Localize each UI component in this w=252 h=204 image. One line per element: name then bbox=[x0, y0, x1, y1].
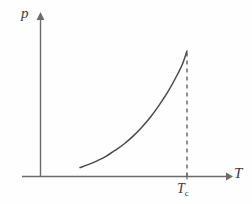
tick-label-subscript: c bbox=[185, 188, 189, 198]
y-axis-label: p bbox=[21, 6, 29, 21]
x-axis-arrowhead bbox=[226, 173, 233, 181]
y-axis bbox=[37, 12, 45, 177]
x-axis-tick-label-tc: Tc bbox=[177, 182, 189, 198]
y-axis-arrowhead bbox=[37, 12, 45, 20]
vapour-pressure-curve bbox=[80, 51, 187, 168]
x-axis-label: T bbox=[234, 166, 242, 181]
tick-label-base: T bbox=[177, 181, 185, 196]
x-axis bbox=[22, 173, 233, 181]
chart-canvas bbox=[0, 0, 252, 204]
phase-diagram-figure: p T Tc bbox=[0, 0, 252, 204]
